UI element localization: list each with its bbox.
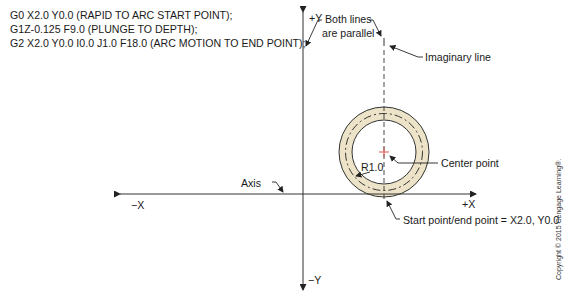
start-end-callout: Start point/end point = X2.0, Y0.0 — [403, 214, 559, 226]
imaginary-line-callout: Imaginary line — [425, 51, 491, 63]
pos-x-label: +X — [462, 198, 475, 210]
center-point-callout: Center point — [441, 157, 499, 169]
center-point-mark — [379, 147, 389, 157]
radius-callout: R1.0 — [361, 161, 383, 173]
pos-y-label: +Y — [309, 12, 322, 24]
arc-diagram — [0, 0, 580, 303]
neg-x-label: −X — [131, 199, 144, 211]
parallel-callout-2: are parallel — [322, 27, 374, 39]
neg-y-label: −Y — [308, 274, 321, 286]
parallel-callout-1: Both lines — [325, 13, 372, 25]
copyright-notice: Copyright © 2015 Cengage Learning®. — [555, 159, 562, 280]
axis-callout: Axis — [241, 177, 261, 189]
